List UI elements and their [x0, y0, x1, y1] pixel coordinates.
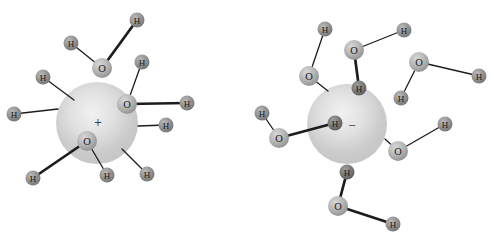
hydration-diagram-canvas: OOOOOOOOOHHHHHHHHHHHHHHHHHHHH+−	[0, 0, 493, 239]
hydrogen-atom: H	[180, 96, 195, 111]
oxygen-atom: O	[77, 131, 97, 151]
hydrogen-atom-circle	[135, 55, 150, 70]
hydrogen-atom: H	[140, 167, 155, 182]
hydrogen-atom-circle	[318, 22, 333, 37]
hydrogen-atom-circle	[340, 165, 355, 180]
oxygen-atom: O	[409, 52, 429, 72]
oxygen-atom-circle	[117, 94, 137, 114]
oxygen-atom: O	[269, 128, 289, 148]
oxygen-atom-circle	[388, 141, 408, 161]
oxygen-atom: O	[92, 58, 112, 78]
hydrogen-atom: H	[36, 70, 51, 85]
oxygen-atom: O	[328, 196, 348, 216]
hydrogen-atom-circle	[397, 23, 412, 38]
oxygen-atom-circle	[328, 196, 348, 216]
hydrogen-atom: H	[340, 165, 355, 180]
hydrogen-atom-circle	[100, 168, 115, 183]
hydrogen-atom: H	[130, 13, 145, 28]
hydrogen-atom-circle	[328, 116, 343, 131]
hydrogen-atom: H	[397, 23, 412, 38]
hydrogen-atom: H	[159, 118, 174, 133]
hydrogen-atom-circle	[394, 91, 409, 106]
oxygen-atom-circle	[92, 58, 112, 78]
hydrogen-atom: H	[7, 107, 22, 122]
hydrogen-atom: H	[135, 55, 150, 70]
oxygen-atom-circle	[299, 66, 319, 86]
hydrogen-atom-circle	[180, 96, 195, 111]
oxygen-atom-circle	[77, 131, 97, 151]
hydrogen-atom-circle	[159, 118, 174, 133]
hydrogen-atom-circle	[36, 70, 51, 85]
hydrogen-atom-circle	[255, 106, 270, 121]
hydrogen-atom: H	[255, 106, 270, 121]
hydrogen-atom: H	[64, 36, 79, 51]
oxygen-atom-circle	[344, 40, 364, 60]
hydrogen-atom: H	[100, 168, 115, 183]
oxygen-atom: O	[344, 40, 364, 60]
hydrogen-atom-circle	[26, 171, 41, 186]
oxygen-atom: O	[117, 94, 137, 114]
hydrogen-atom-circle	[130, 13, 145, 28]
hydrogen-atom: H	[394, 91, 409, 106]
hydrogen-atom-circle	[140, 167, 155, 182]
oxygen-atom: O	[388, 141, 408, 161]
hydrogen-atom: H	[472, 69, 487, 84]
oxygen-atom-circle	[269, 128, 289, 148]
hydrogen-atom: H	[386, 217, 401, 232]
oxygen-atom: O	[299, 66, 319, 86]
hydrogen-atom-circle	[386, 217, 401, 232]
oxygen-atom-circle	[409, 52, 429, 72]
hydrogen-atom-circle	[64, 36, 79, 51]
hydrogen-atom-circle	[472, 69, 487, 84]
hydrogen-atom: H	[328, 116, 343, 131]
hydrogen-atom: H	[26, 171, 41, 186]
hydration-diagram: OOOOOOOOOHHHHHHHHHHHHHHHHHHHH+−	[0, 0, 493, 239]
hydrogen-atom-circle	[438, 117, 453, 132]
hydrogen-atom-circle	[352, 81, 367, 96]
hydrogen-atom: H	[352, 81, 367, 96]
hydrogen-atom: H	[438, 117, 453, 132]
hydrogen-atom-circle	[7, 107, 22, 122]
anion-sphere	[307, 84, 387, 164]
hydrogen-atom: H	[318, 22, 333, 37]
